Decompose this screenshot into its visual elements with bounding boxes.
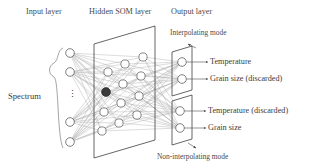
network-diagram-svg bbox=[0, 0, 310, 168]
non-interpolating-mode-pointer bbox=[188, 143, 196, 148]
hidden-node bbox=[139, 53, 147, 61]
output-node-grain-size-discarded bbox=[178, 75, 187, 84]
title-output-layer: Output layer bbox=[171, 8, 212, 16]
hidden-node bbox=[121, 60, 129, 68]
input-node bbox=[66, 68, 75, 77]
input-node bbox=[66, 49, 75, 58]
input-nodes-ellipsis-icon: ⋮ bbox=[68, 90, 77, 99]
input-node bbox=[66, 118, 75, 127]
hidden-node bbox=[137, 72, 145, 80]
label-interpolating-mode: Interpolating mode bbox=[170, 29, 226, 36]
output-nodes-bottom bbox=[176, 107, 185, 133]
title-input-layer: Input layer bbox=[26, 8, 62, 16]
output-node-temperature bbox=[178, 58, 187, 67]
hidden-node bbox=[133, 111, 141, 119]
hidden-node bbox=[100, 108, 108, 116]
label-spectrum-brace: Spectrum bbox=[8, 92, 41, 101]
output-node-temperature-discarded bbox=[176, 107, 185, 116]
input-node bbox=[66, 138, 75, 147]
output-node-grain-size bbox=[176, 124, 185, 133]
output-plane-bottom bbox=[172, 95, 192, 145]
output-label-grain-size: Grain size bbox=[208, 124, 241, 132]
output-label-temperature: Temperature bbox=[210, 58, 251, 66]
connections-input-to-hidden bbox=[70, 53, 143, 142]
output-nodes-top bbox=[178, 58, 187, 84]
figure-canvas: Input layer Hidden SOM layer Output laye… bbox=[0, 0, 310, 168]
hidden-node bbox=[135, 92, 143, 100]
hidden-node-winning-bmu bbox=[102, 88, 111, 97]
hidden-node bbox=[98, 127, 106, 135]
label-non-interpolating-mode: Non-interpolating mode bbox=[157, 153, 228, 160]
output-arrows bbox=[185, 62, 209, 128]
output-label-temperature-discarded: Temperature (discarded) bbox=[208, 107, 288, 115]
output-label-grain-size-discarded: Grain size (discarded) bbox=[210, 75, 282, 83]
hidden-node bbox=[117, 99, 125, 107]
hidden-node bbox=[115, 119, 123, 127]
hidden-node bbox=[119, 80, 127, 88]
title-hidden-som-layer: Hidden SOM layer bbox=[89, 8, 151, 16]
hidden-node bbox=[104, 68, 112, 76]
input-brace bbox=[50, 48, 64, 148]
output-plane-top bbox=[172, 46, 192, 96]
